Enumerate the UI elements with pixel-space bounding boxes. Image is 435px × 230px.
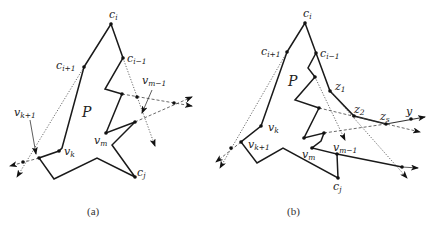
vertex-notch — [313, 75, 317, 79]
label-v-m: vm — [302, 148, 315, 162]
pointer-v-m-minus-1 — [142, 90, 152, 113]
label-z-1: z1 — [334, 80, 346, 94]
vertex-v-m — [310, 146, 314, 150]
label-v-k: vk — [64, 145, 75, 159]
caption-a: (a) — [87, 205, 100, 218]
edge-v-m-minus-1-right — [337, 154, 402, 167]
vertex-v-k-plus-1 — [239, 140, 243, 144]
vertex-c-i-minus-1 — [121, 56, 125, 60]
vertex-v-m — [104, 131, 108, 135]
vertex-left-inner — [302, 136, 306, 140]
label-c-i-minus-1: ci−1 — [320, 47, 340, 61]
panel-a: ci ci+1 ci−1 vm−1 vk+1 vk vm cj P (a) — [10, 8, 192, 218]
vertex-v-k — [259, 124, 263, 128]
vertex-intersection — [135, 95, 139, 99]
label-c-i: ci — [109, 8, 118, 22]
ray-zs-to-y — [386, 117, 425, 124]
figure-canvas: ci ci+1 ci−1 vm−1 vk+1 vk vm cj P (a) — [0, 0, 435, 230]
pointer-v-k-plus-1 — [30, 120, 36, 154]
label-c-i-plus-1: ci+1 — [56, 59, 76, 73]
vertex-c-i-plus-1 — [82, 65, 86, 69]
panel-b: ci ci+1 ci−1 z1 z2 zs y vk vk+1 vm vm−1 … — [216, 7, 425, 218]
label-z-s: zs — [379, 110, 390, 124]
vertex-notch — [120, 92, 124, 96]
label-z-2: z2 — [353, 103, 365, 117]
label-v-m-minus-1: vm−1 — [142, 74, 166, 88]
region-label-P: P — [81, 104, 92, 120]
vertex-far-right — [400, 165, 404, 169]
label-v-k-plus-1: vk+1 — [14, 106, 36, 120]
region-label-P: P — [287, 73, 298, 89]
vertex-lower-inner — [322, 131, 326, 135]
vertex-inner — [317, 106, 321, 110]
label-y: y — [405, 105, 413, 118]
vertex-left-intersection — [229, 146, 233, 150]
vertex-c-i-minus-1 — [314, 51, 318, 55]
label-c-j: cj — [137, 166, 146, 180]
dashed-segment-lower — [324, 124, 386, 133]
dashed-ray-upper — [122, 94, 192, 106]
label-c-i-plus-1: ci+1 — [261, 45, 281, 59]
vertex-v-k — [57, 149, 61, 153]
dashed-ray-lower-left — [216, 142, 241, 162]
label-v-m-minus-1: vm−1 — [333, 141, 357, 155]
vertex-c-i — [109, 22, 113, 26]
chain-c-to-zs — [316, 53, 386, 124]
vertex-left-intersection — [21, 160, 25, 164]
dotted-ray-z1-long — [330, 91, 407, 178]
vertex-v-m-minus-1 — [133, 120, 137, 124]
label-v-m: vm — [94, 134, 107, 148]
label-v-k-plus-1: vk+1 — [248, 138, 270, 152]
vertex-c-i — [303, 21, 307, 25]
dotted-ray-c-i-minus-1 — [123, 58, 155, 146]
label-c-j: cj — [333, 180, 342, 194]
vertex-c-i-plus-1 — [285, 50, 289, 54]
dashed-ray-middle — [319, 108, 420, 132]
polygon-boundary — [39, 24, 135, 179]
label-c-i: ci — [303, 7, 312, 21]
vertex-z-1 — [328, 89, 332, 93]
vertex-far-right — [172, 101, 176, 105]
caption-b: (b) — [287, 205, 300, 218]
dotted-ray-c-i-plus-1 — [17, 67, 84, 177]
label-c-i-minus-1: ci−1 — [127, 52, 147, 66]
ray-right-end — [402, 167, 418, 168]
vertex-v-k-plus-1 — [37, 156, 41, 160]
label-v-k: vk — [268, 121, 279, 135]
